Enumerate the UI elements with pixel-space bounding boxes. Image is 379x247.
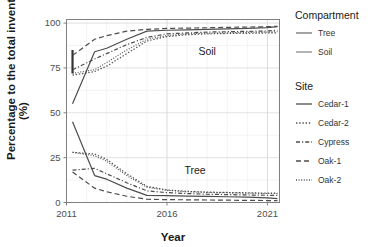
y-axis-title: Percentage to the total inventory — [5, 0, 17, 160]
y-tick-label: 100 — [45, 17, 61, 28]
legend-title-compartment: Compartment — [295, 9, 359, 21]
legend-item-site-oak-1[interactable] — [293, 153, 371, 168]
x-tick-label: 2021 — [257, 208, 278, 219]
legend-item-compartment-tree[interactable] — [293, 25, 371, 40]
x-tick-label: 2016 — [156, 208, 177, 219]
y-tick-label: 25 — [50, 152, 61, 163]
legend-item-site-cypress[interactable] — [293, 134, 371, 149]
chart-figure: 0255075100 201120162021 SoilTree Percent… — [0, 0, 379, 247]
legend-item-site-cedar-1[interactable] — [293, 96, 371, 111]
x-axis-title: Year — [161, 231, 186, 243]
panel-annotation-tree: Tree — [185, 164, 206, 176]
y-tick-label: 50 — [50, 107, 61, 118]
legend-title-site: Site — [295, 80, 313, 92]
line-chart: 0255075100 201120162021 SoilTree Percent… — [0, 0, 379, 247]
y-axis-title-unit: (%) — [17, 102, 29, 120]
legend-item-site-cedar-2[interactable] — [293, 115, 371, 130]
y-tick-label: 0 — [55, 197, 60, 208]
x-tick-label: 2011 — [56, 208, 76, 219]
legend: CompartmentTreeSoilSiteCedar-1Cedar-2Cyp… — [293, 9, 371, 187]
legend-item-compartment-soil[interactable] — [293, 44, 371, 59]
panel-annotation-soil: Soil — [198, 45, 216, 57]
legend-item-site-oak-2[interactable] — [293, 172, 371, 187]
y-tick-label: 75 — [50, 62, 61, 73]
